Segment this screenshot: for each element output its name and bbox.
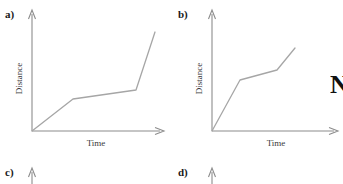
panel-c-graphics xyxy=(29,168,36,184)
panel-a-data-line xyxy=(32,32,155,131)
panel-label-b: b) xyxy=(178,9,188,20)
clipped-edge-glyph: N xyxy=(330,72,343,98)
panel-b-x-axis-label: Time xyxy=(256,139,296,148)
figure-canvas: a) Distance Time b) Distance Time c) d) … xyxy=(0,0,343,184)
panel-a-y-axis-label: Distance xyxy=(15,51,24,107)
panel-b-data-line xyxy=(212,48,295,131)
panel-a-graphics xyxy=(29,10,165,135)
panel-label-a: a) xyxy=(5,9,14,20)
panel-d-graphics xyxy=(209,168,216,184)
panel-label-d: d) xyxy=(178,167,188,178)
panel-b-graphics xyxy=(209,10,339,135)
plot-graphics xyxy=(0,0,343,184)
panel-label-c: c) xyxy=(5,167,14,178)
panel-b-y-axis-label: Distance xyxy=(195,51,204,107)
panel-a-x-axis-label: Time xyxy=(76,139,116,148)
